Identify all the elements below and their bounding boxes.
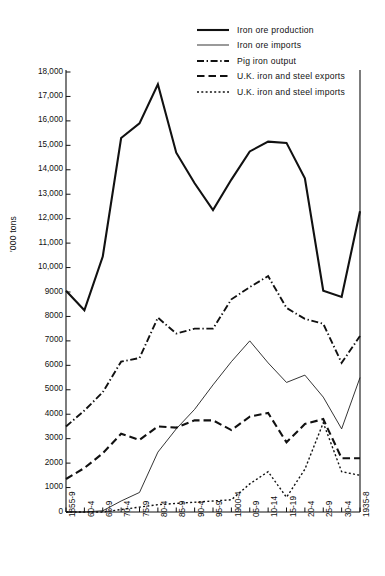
legend-item[interactable]: U.K. iron and steel exports [196, 69, 345, 85]
series-line-1 [66, 341, 360, 512]
x-axis-tick-label: 1935-8 [363, 492, 371, 518]
y-axis-tick-label: 8000 [45, 312, 63, 320]
x-axis-tick-label: 95-9 [216, 501, 224, 517]
x-axis-tick-label: 80-4 [161, 501, 169, 517]
y-axis-tick-label: 3000 [45, 434, 63, 442]
y-axis-tick-label: 6000 [45, 361, 63, 369]
y-axis-tick-label: 17,000 [38, 92, 63, 100]
y-axis-tick-label: 12,000 [38, 214, 63, 222]
legend-item[interactable]: Pig iron output [196, 53, 345, 69]
x-axis-tick-label: 25-9 [326, 501, 334, 517]
series-line-3 [66, 413, 360, 479]
y-axis-tick-label: 15,000 [38, 141, 63, 149]
x-axis-tick-label: 75-9 [143, 501, 151, 517]
y-axis-tick-label: 2000 [45, 459, 63, 467]
y-axis-tick-label: 11,000 [39, 239, 63, 247]
x-axis-tick-label: 1855-9 [69, 492, 77, 518]
legend-item-label: U.K. iron and steel imports [237, 87, 345, 97]
y-axis-tick-label: 14,000 [38, 165, 63, 173]
series-line-4 [66, 423, 360, 512]
x-axis-tick-label: 05-9 [253, 501, 261, 517]
legend-key-swatch [196, 87, 230, 97]
y-axis-tick-label: 4000 [45, 410, 63, 418]
y-axis-tick-label: 5000 [45, 385, 63, 393]
legend-key-swatch [196, 71, 230, 81]
y-axis-tick-label: 0 [58, 508, 63, 516]
x-axis-tick-label: 1900-4 [235, 492, 243, 518]
x-axis-tick-label: 15-19 [290, 496, 298, 517]
y-axis-tick-label: 1000 [45, 483, 63, 491]
legend-item[interactable]: Iron ore imports [196, 38, 345, 54]
legend-key-swatch [196, 25, 230, 35]
y-axis-tick-label: 16,000 [38, 116, 63, 124]
series-line-2 [66, 276, 360, 426]
y-axis-tick-label: 7000 [45, 336, 63, 344]
legend-item-label: Pig iron output [237, 56, 296, 66]
legend-item-label: Iron ore imports [237, 40, 301, 50]
legend-item[interactable]: U.K. iron and steel imports [196, 84, 345, 100]
y-axis-tick-label: 9000 [45, 288, 63, 296]
series-line-0 [66, 84, 360, 310]
legend-item-label: Iron ore production [237, 25, 314, 35]
chart-series-group [66, 84, 360, 512]
x-axis-tick-label: 60-4 [88, 501, 96, 517]
x-axis-tick-label: 90-4 [198, 501, 206, 517]
y-axis-tick-label: 13,000 [38, 190, 63, 198]
x-axis-tick-label: 85-9 [179, 501, 187, 517]
x-axis-tick-label: 65-9 [106, 501, 114, 517]
y-axis-tick-label: 18,000 [38, 68, 63, 76]
chart-legend: Iron ore productionIron ore importsPig i… [196, 22, 345, 100]
chart-axes [66, 70, 360, 512]
x-axis-tick-label: 10-14 [271, 496, 279, 517]
y-axis-title: '000 tons [8, 216, 18, 252]
legend-key-swatch [196, 40, 230, 50]
legend-key-swatch [196, 56, 230, 66]
legend-item[interactable]: Iron ore production [196, 22, 345, 38]
x-axis-tick-label: 30-4 [345, 501, 353, 517]
x-axis-tick-label: 20-4 [308, 501, 316, 517]
chart-figure: '000 tons 010002000300040005000600070008… [0, 0, 385, 576]
x-axis-tick-label: 70-4 [124, 501, 132, 517]
legend-item-label: U.K. iron and steel exports [237, 71, 345, 81]
y-axis-tick-label: 10,000 [38, 263, 63, 271]
